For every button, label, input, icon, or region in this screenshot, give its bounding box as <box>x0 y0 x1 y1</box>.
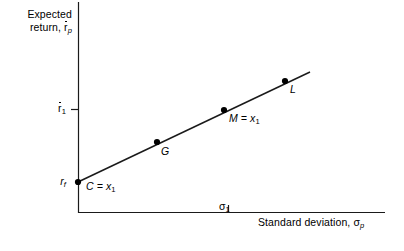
sigma-1-letter: σ <box>219 200 226 212</box>
x-axis-title-prefix: Standard deviation, <box>258 216 353 228</box>
data-point-g[interactable] <box>154 139 160 145</box>
point-c-text: C = x <box>86 180 111 192</box>
x-axis-title-var-letter: σ <box>353 216 360 228</box>
point-label-g: G <box>161 145 169 158</box>
y-tick-label-r-bar-1: r1 <box>44 102 66 117</box>
point-g-text: G <box>161 145 169 157</box>
point-c-subscript: 1 <box>111 185 115 194</box>
point-label-m: M = x1 <box>229 112 260 127</box>
y-axis-title: Expected return, rp <box>8 8 72 35</box>
overbar-glyph <box>59 102 61 103</box>
y-axis-title-subscript: p <box>68 26 72 35</box>
point-m-subscript: 1 <box>255 117 259 126</box>
chart-background <box>0 0 404 251</box>
x-axis-title: Standard deviation, σp <box>258 216 364 231</box>
point-label-c: C = x1 <box>86 180 116 195</box>
data-point-c[interactable] <box>75 179 81 185</box>
chart-figure: Expected return, rp Standard deviation, … <box>0 0 404 251</box>
point-l-text: L <box>290 83 296 95</box>
overbar-glyph <box>65 21 67 22</box>
capital-market-line-chart <box>0 0 404 251</box>
r-bar-1-subscript: 1 <box>62 107 66 116</box>
y-tick-label-r-f: rf <box>44 175 66 190</box>
y-axis-title-line2-prefix: return, <box>30 21 64 33</box>
point-m-text: M = x <box>229 112 255 124</box>
data-point-m[interactable] <box>221 107 227 113</box>
sigma-1-subscript: 1 <box>226 205 230 214</box>
data-point-l[interactable] <box>282 78 288 84</box>
x-tick-label-sigma-1: σ1 <box>219 200 230 215</box>
x-axis-title-subscript: p <box>360 221 364 230</box>
point-label-l: L <box>290 83 296 96</box>
r-f-subscript: f <box>64 180 66 189</box>
y-axis-title-line1: Expected <box>27 8 72 20</box>
